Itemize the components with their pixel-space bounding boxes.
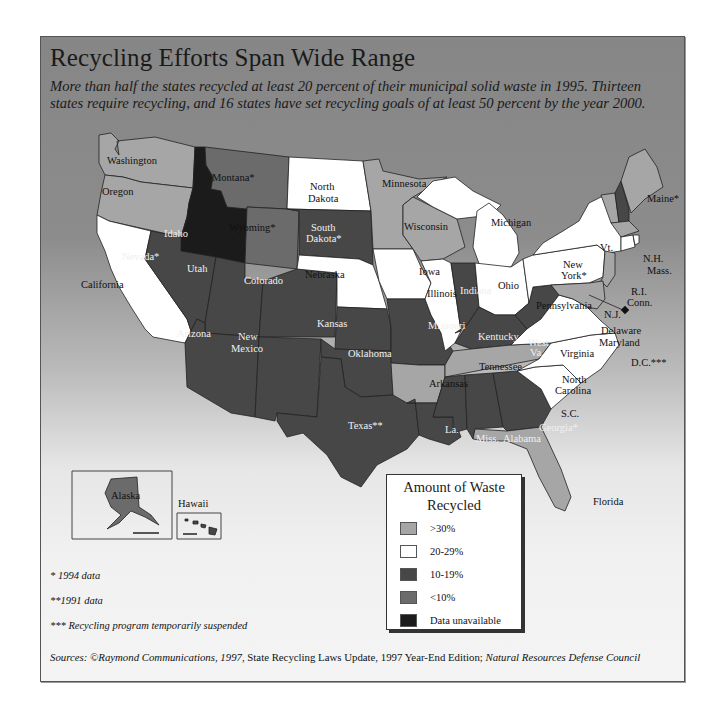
state-hawaii [185,519,217,535]
label-hawaii: Hawaii [178,498,208,509]
state-utah [205,257,263,337]
legend-label: >30% [430,523,455,534]
label-utah: Utah [187,263,208,274]
legend-label: Data unavailable [430,615,501,626]
state-new-mexico [255,337,321,421]
label-vermont: Vt. [600,242,613,253]
figure-frame: Recycling Efforts Span Wide Range More t… [40,36,685,682]
label-colorado: Colorado [244,275,283,286]
label-kentucky: Kentucky [478,331,520,342]
label-maryland: Maryland [599,337,641,348]
label-indiana: Indiana [460,285,492,296]
legend-item-10-19: 10-19% [400,567,463,581]
sources-citation: Sources: ©Raymond Communications, 1997, … [50,647,680,667]
legend-item-20-29: 20-29% [400,544,463,558]
label-arizona: Arizona [177,328,211,339]
label-idaho: Idaho [164,228,188,239]
label-nebraska: Nebraska [305,269,345,280]
label-michigan: Michigan [491,217,532,228]
label-oklahoma: Oklahoma [348,348,392,359]
footnote-1991: **1991 data [50,595,103,606]
label-new-mexico-2: Mexico [231,343,263,354]
label-south-dakota-2: Dakota* [306,233,342,244]
footnote-suspended: *** Recycling program temporarily suspen… [50,620,247,631]
label-wisconsin: Wisconsin [404,221,449,232]
label-nevada: Nevada* [122,251,159,262]
label-texas: Texas** [348,420,383,431]
footnote-1994: * 1994 data [50,570,100,581]
label-pennsylvania: Pennsylvania [536,300,592,311]
label-tennessee: Tennessee [479,361,522,372]
state-connecticut [621,235,635,251]
state-alaska [105,477,159,529]
label-west-virginia-2: Va. [530,347,544,358]
label-alaska: Alaska [111,490,140,501]
label-dc: D.C.*** [631,357,667,368]
label-massachusetts: Mass. [647,265,672,276]
label-north-dakota-1: North [310,181,335,192]
label-florida: Florida [593,496,624,507]
state-wyoming [245,207,299,269]
legend-label: <10% [430,592,455,603]
sources-prefix: Sources: ©Raymond Communications, 1997, [50,651,245,663]
swatch-20-29 [400,545,417,558]
label-south-dakota-1: South [311,222,336,233]
label-delaware: Delaware [601,325,642,336]
label-maine: Maine* [647,193,679,204]
label-ohio: Ohio [498,280,519,291]
label-wyoming: Wyoming* [229,222,276,233]
label-louisiana: La. [445,424,459,435]
label-california: California [81,279,124,290]
label-south-carolina: S.C. [561,408,579,419]
label-minnesota: Minnesota [382,178,427,189]
swatch-under10 [400,591,417,604]
label-new-york-2: York* [561,270,587,281]
label-kansas: Kansas [317,318,347,329]
swatch-10-19 [400,568,417,581]
label-alabama: Alabama [503,433,541,444]
legend-label: 10-19% [430,569,463,580]
label-georgia: Georgia* [539,422,578,433]
label-north-carolina-1: North [562,374,587,385]
legend-item-over30: >30% [400,521,455,535]
label-north-carolina-2: Carolina [555,385,591,396]
state-michigan-lower [473,203,519,269]
label-iowa: Iowa [419,266,440,277]
label-new-mexico-1: New [238,331,258,342]
legend-title: Amount of Waste Recycled [387,478,521,514]
label-oregon: Oregon [102,186,134,197]
legend-title-line1: Amount of Waste [387,478,521,496]
legend-title-line2: Recycled [387,496,521,514]
state-kansas [335,307,391,351]
label-virginia: Virginia [560,348,595,359]
swatch-over30 [400,522,417,535]
label-missouri: Missouri [428,320,465,331]
legend-item-unavailable: Data unavailable [400,613,501,627]
label-montana: Montana* [212,172,255,183]
label-north-dakota-2: Dakota [308,193,339,204]
label-new-jersey: N.J. [604,309,621,320]
swatch-unavailable [400,614,417,627]
map-legend: Amount of Waste Recycled >30% 20-29% 10-… [386,474,522,630]
legend-label: 20-29% [430,546,463,557]
label-new-hampshire: N.H. [643,253,663,264]
label-arkansas: Arkansas [429,378,468,389]
sources-report: State Recycling Laws Update, 1997 Year-E… [245,651,483,663]
legend-item-under10: <10% [400,590,455,604]
label-washington: Washington [107,155,158,166]
label-rhode-island: R.I. [631,286,647,297]
label-new-york-1: New [563,259,583,270]
label-illinois: Illinois [427,288,457,299]
sources-org: Natural Resources Defense Council [483,651,640,663]
us-map: Washington Oregon California Idaho Nevad… [41,37,684,681]
label-mississippi: Miss. [476,433,499,444]
label-connecticut: Conn. [627,297,652,308]
